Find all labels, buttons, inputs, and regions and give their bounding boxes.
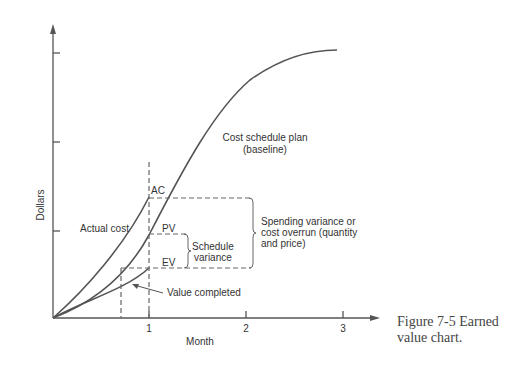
schedule-variance-label-line2: variance <box>194 252 232 263</box>
y-axis-label: Dollars <box>35 189 46 220</box>
figure-caption-line1: Figure 7-5 Earned <box>397 314 499 329</box>
baseline-label-line2: (baseline) <box>243 144 287 155</box>
x-tick-label-3: 3 <box>340 323 346 334</box>
value-completed-curve <box>53 268 149 318</box>
pointer-arrow-icon <box>132 284 139 289</box>
x-axis <box>53 311 380 321</box>
x-tick-label-1: 1 <box>146 323 152 334</box>
x-tick-label-2: 2 <box>243 323 249 334</box>
ac-label: AC <box>151 185 165 196</box>
figure-caption-line2: value chart. <box>397 330 462 345</box>
actual-cost-label: Actual cost <box>80 223 129 234</box>
baseline-curve <box>53 50 337 318</box>
schedule-variance-brace <box>184 234 191 268</box>
spending-variance-label-line2: cost overrun (quantity <box>261 227 357 238</box>
spending-variance-label-line1: Spending variance or <box>261 216 356 227</box>
ev-label: EV <box>162 257 176 268</box>
baseline-label-line1: Cost schedule plan <box>222 132 307 143</box>
earned-value-chart: Dollars 1 2 3 Month AC PV EV Cost schedu… <box>0 0 515 366</box>
y-axis-arrow-icon <box>50 24 56 34</box>
y-axis <box>50 24 60 318</box>
value-completed-label: Value completed <box>167 287 241 298</box>
pv-label: PV <box>162 223 176 234</box>
spending-variance-label-line3: and price) <box>261 238 305 249</box>
x-axis-arrow-icon <box>370 315 380 321</box>
spending-variance-brace <box>249 198 256 268</box>
schedule-variance-label-line1: Schedule <box>192 241 234 252</box>
x-axis-label: Month <box>186 336 214 347</box>
